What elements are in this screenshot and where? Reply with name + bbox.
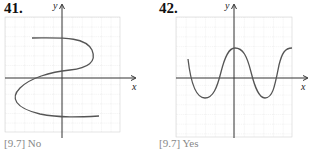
problem-41: x y 41. [9.7] No: [0, 0, 155, 151]
graph-41: x y: [0, 0, 155, 151]
graph-42: x y: [155, 0, 311, 151]
problem-42: x y 42. [9.7] Yes: [155, 0, 310, 151]
answer-text: [9.7] Yes: [159, 137, 198, 149]
problem-number: 41.: [4, 0, 23, 17]
x-axis-label: x: [300, 81, 306, 92]
x-axis-label: x: [131, 81, 137, 92]
y-axis-label: y: [224, 0, 230, 11]
problem-number: 42.: [159, 0, 178, 17]
answer-text: [9.7] No: [4, 137, 41, 149]
y-axis-label: y: [52, 0, 58, 11]
